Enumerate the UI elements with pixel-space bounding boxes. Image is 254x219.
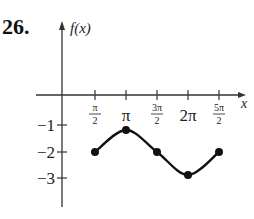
x-tick-label-numerator: π — [92, 102, 97, 113]
y-axis-arrow-icon — [59, 21, 65, 30]
x-tick-label-denominator: 2 — [155, 115, 160, 126]
x-tick-label-numerator: 3π — [152, 102, 162, 113]
x-tick-label-numerator: 5π — [214, 102, 224, 113]
y-tick-label: −1 — [37, 116, 55, 135]
data-point — [184, 171, 192, 179]
x-axis-label: x — [240, 96, 248, 111]
y-axis: f(x) — [59, 20, 91, 207]
x-tick-label-denominator: 2 — [217, 115, 222, 126]
chart: x f(x) π2π3π22π5π2 −1−2−3 — [0, 0, 254, 219]
y-tick-label: −3 — [37, 169, 55, 188]
data-points — [91, 126, 223, 179]
y-tick-label: −2 — [37, 143, 55, 162]
x-tick-label-denominator: 2 — [93, 115, 98, 126]
y-axis-label: f(x) — [70, 20, 91, 37]
x-tick-label: 2π — [179, 106, 197, 125]
data-point — [153, 148, 161, 156]
data-point — [215, 148, 223, 156]
data-point — [91, 148, 99, 156]
x-tick-label: π — [122, 106, 131, 125]
data-point — [122, 126, 130, 134]
